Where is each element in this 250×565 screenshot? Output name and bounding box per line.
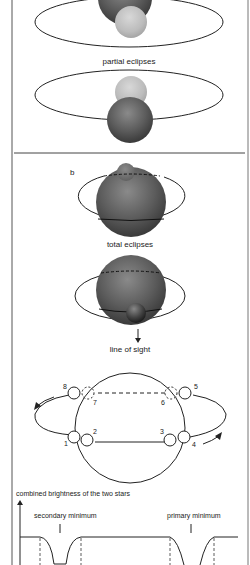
position-label: 5 xyxy=(194,383,198,390)
position-5-marker xyxy=(179,387,191,399)
light-star-icon xyxy=(115,6,147,38)
primary-star-outline xyxy=(75,373,185,483)
secondary-minimum-label: secondary minimum xyxy=(34,512,97,520)
dark-star-icon xyxy=(107,97,153,143)
position-8-marker xyxy=(68,387,80,399)
total-eclipse-bottom xyxy=(75,255,185,325)
brightness-curve xyxy=(20,537,184,565)
panel-b-label: b xyxy=(70,168,75,177)
small-star-icon xyxy=(126,303,146,323)
total-eclipse-top xyxy=(78,163,185,237)
position-label: 8 xyxy=(63,383,67,390)
axis-arrow-icon xyxy=(17,500,23,505)
position-label: 7 xyxy=(93,399,97,406)
position-1-marker xyxy=(68,431,80,443)
eclipsing-binary-diagram: partial eclipses b total eclipses line o… xyxy=(0,0,250,565)
position-label: 6 xyxy=(161,399,165,406)
light-curve: combined brightness of the two stars sec… xyxy=(16,490,238,565)
position-label: 3 xyxy=(160,428,164,435)
partial-eclipse-top xyxy=(35,0,223,47)
partial-eclipse-bottom xyxy=(35,70,223,143)
position-label: 1 xyxy=(64,440,68,447)
small-star-icon xyxy=(117,163,135,181)
line-of-sight-arrow-icon xyxy=(135,329,141,343)
y-axis-label: combined brightness of the two stars xyxy=(16,490,131,498)
position-4-marker xyxy=(178,431,190,443)
line-of-sight-label: line of sight xyxy=(110,345,151,354)
position-label: 2 xyxy=(93,428,97,435)
position-3-marker xyxy=(164,434,176,446)
orbit-positions-diagram: 1 2 3 4 5 6 7 8 xyxy=(34,373,226,483)
position-label: 4 xyxy=(192,441,196,448)
orbit-direction-arrow-icon xyxy=(203,432,222,444)
position-2-marker xyxy=(81,434,93,446)
partial-eclipses-caption: partial eclipses xyxy=(103,57,156,66)
total-eclipses-caption: total eclipses xyxy=(107,240,153,249)
primary-minimum-label: primary minimum xyxy=(167,512,221,520)
position-6-marker xyxy=(165,387,177,399)
